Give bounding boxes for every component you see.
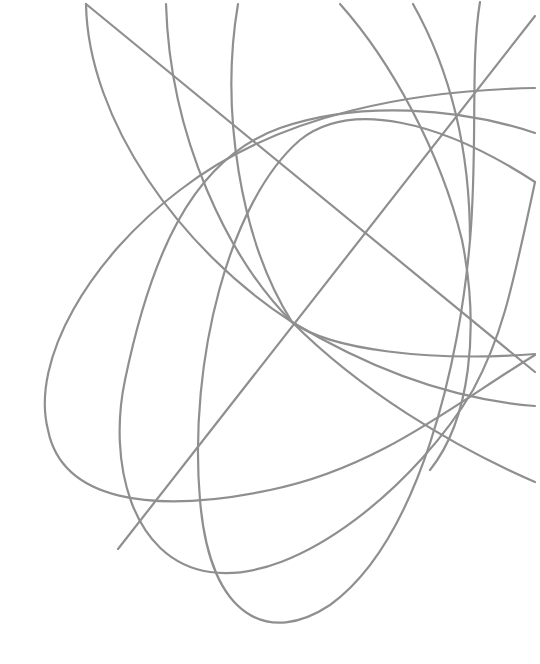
arc-left-b-stroke [166,4,535,482]
arc-left-c-stroke [232,4,535,356]
artwork-canvas [0,0,540,664]
arc-left-a-stroke [86,4,535,406]
arc-top-e-stroke [413,4,470,240]
ellipse-tall-stroke [198,2,535,623]
line-art-graphic [0,0,540,664]
arc-top-d-stroke [340,4,471,470]
line-art-strokes [45,2,535,623]
line-diagonal-asc-stroke [118,16,535,549]
